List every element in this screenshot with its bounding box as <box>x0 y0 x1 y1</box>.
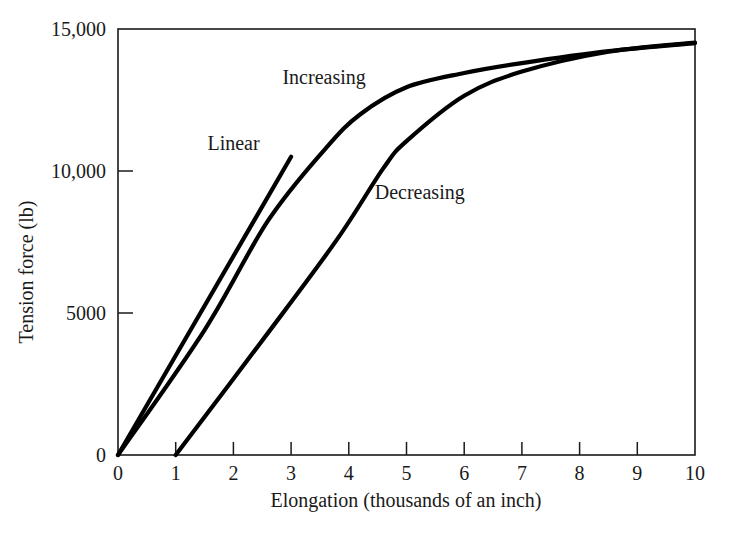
x-tick-label-6: 6 <box>459 462 469 484</box>
x-axis-tick-labels: 012345678910 <box>113 462 705 484</box>
series-line-decreasing <box>176 43 695 455</box>
chart-series-group <box>118 43 695 455</box>
x-axis-title: Elongation (thousands of an inch) <box>270 489 541 512</box>
x-tick-label-5: 5 <box>402 462 412 484</box>
y-axis-title: Tension force (lb) <box>15 201 38 344</box>
y-tick-label-0: 0 <box>96 444 106 466</box>
series-line-linear <box>118 157 291 455</box>
x-tick-label-10: 10 <box>685 462 705 484</box>
y-tick-label-10,000: 10,000 <box>51 160 106 182</box>
y-axis-tick-labels: 0500010,00015,000 <box>51 18 106 466</box>
tension-elongation-line-chart: 012345678910 0500010,00015,000 LinearInc… <box>0 0 739 537</box>
plot-frame <box>118 29 695 455</box>
x-tick-label-1: 1 <box>171 462 181 484</box>
series-label-decreasing: Decreasing <box>375 181 465 204</box>
x-tick-label-9: 9 <box>632 462 642 484</box>
x-tick-label-3: 3 <box>286 462 296 484</box>
series-line-increasing <box>118 43 695 455</box>
y-tick-label-5000: 5000 <box>66 302 106 324</box>
x-tick-label-0: 0 <box>113 462 123 484</box>
chart-figure: 012345678910 0500010,00015,000 LinearInc… <box>0 0 739 537</box>
x-tick-label-2: 2 <box>228 462 238 484</box>
series-label-linear: Linear <box>207 132 260 154</box>
y-axis-ticks <box>118 171 133 313</box>
x-tick-label-8: 8 <box>575 462 585 484</box>
x-tick-label-7: 7 <box>517 462 527 484</box>
series-label-increasing: Increasing <box>282 66 365 89</box>
x-axis-ticks <box>176 442 638 455</box>
x-tick-label-4: 4 <box>344 462 354 484</box>
y-tick-label-15,000: 15,000 <box>51 18 106 40</box>
